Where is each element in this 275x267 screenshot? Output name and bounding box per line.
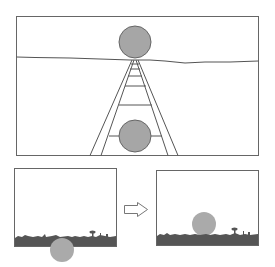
lower-circle bbox=[119, 120, 151, 152]
illusion-diagram bbox=[0, 0, 275, 267]
upper-circle bbox=[119, 26, 151, 58]
bottom-left-panel bbox=[15, 169, 117, 263]
moon-at-horizon bbox=[50, 238, 74, 262]
top-panel bbox=[17, 17, 259, 156]
right-arrow-icon bbox=[125, 203, 148, 217]
bottom-right-panel bbox=[157, 171, 259, 246]
moon-risen bbox=[192, 212, 216, 236]
bottom-left-frame bbox=[15, 169, 117, 247]
